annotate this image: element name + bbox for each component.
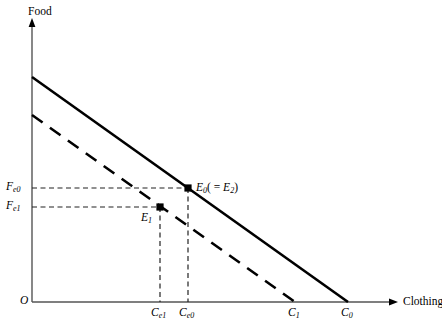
y-tick-label-Fe0: Fe0 [6,181,21,194]
point-E0-base: E [196,181,203,193]
point-E0-suffix-close: ) [234,181,238,193]
x-tick-label-Ce1: Ce1 [151,307,166,320]
x-tick-C1-sub: 1 [296,311,300,320]
y-axis-arrowhead [29,18,36,27]
guide-lines-group [32,188,188,302]
point-E1-base: E [141,211,148,223]
x-tick-Ce0-sub: e0 [187,311,195,320]
x-tick-C0-sub: 0 [349,311,353,320]
x-tick-Ce0-base: C [179,306,187,318]
x-tick-C1-base: C [288,306,296,318]
x-tick-label-Ce0: Ce0 [179,307,194,320]
chart-canvas [0,0,442,331]
point-E1-sub: 1 [148,216,152,225]
y-tick-label-Fe1: Fe1 [6,200,21,213]
point-label-E1: E1 [141,212,152,225]
point-E0-suffix-open: ( = [207,181,223,193]
x-tick-label-C0: C0 [341,307,353,320]
x-tick-Ce1-sub: e1 [159,311,167,320]
y-tick-Fe1-base: F [6,199,13,211]
x-axis-arrowhead [389,299,398,306]
y-tick-Fe0-base: F [6,180,13,192]
point-label-E0: E0( = E2) [196,182,238,195]
x-tick-Ce1-base: C [151,306,159,318]
x-axis-title: Clothing [403,296,442,308]
y-axis-title: Food [28,6,52,18]
point-marker-E0 [184,184,191,191]
budget-line-diagram: Food Clothing O Fe0 Fe1 Ce1 Ce0 C1 C0 E0… [0,0,442,331]
point-marker-E1 [156,203,163,210]
origin-label: O [20,295,28,307]
x-tick-label-C1: C1 [288,307,300,320]
axes-group [29,18,398,305]
x-tick-C0-base: C [341,306,349,318]
y-tick-Fe0-sub: e0 [13,185,21,194]
y-tick-Fe1-sub: e1 [13,204,21,213]
